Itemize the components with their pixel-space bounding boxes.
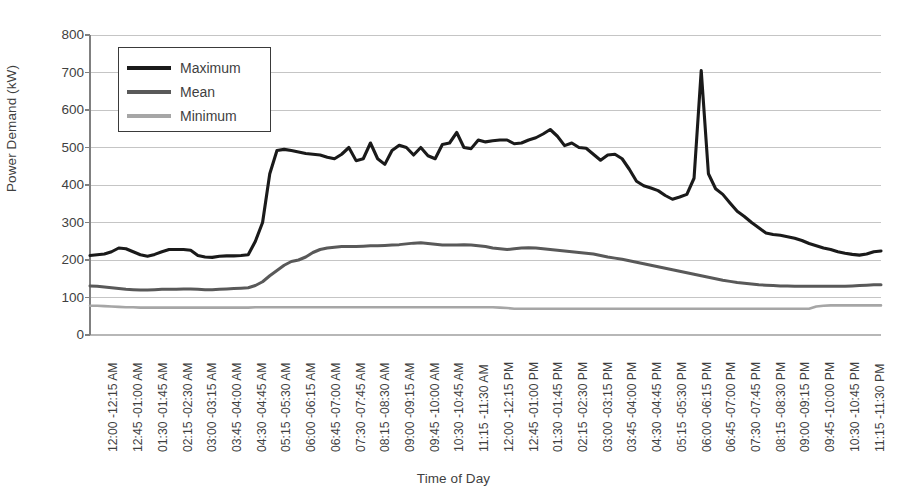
- x-tick-label: 09:45 -10:00 AM: [429, 363, 441, 452]
- x-tick-label: 06:45 -07:00 AM: [330, 363, 342, 452]
- x-tick-label: 07:30 -07:45 AM: [355, 363, 367, 452]
- power-demand-chart: 0100200300400500600700800 12:00 -12:15 A…: [0, 0, 907, 504]
- x-tick-label: 03:45 -04:00 AM: [231, 363, 243, 452]
- legend-swatch-maximum: [127, 66, 171, 70]
- x-tick-label: 08:15 -08:30 PM: [775, 362, 787, 452]
- x-tick-label: 06:00 -06:15 PM: [701, 362, 713, 452]
- x-tick-label: 09:00 -09:15 PM: [799, 362, 811, 452]
- x-tick-label: 08:15 -08:30 AM: [379, 363, 391, 452]
- chart-legend: Maximum Mean Minimum: [118, 47, 271, 132]
- x-tick-label: 06:00 -06:15 AM: [305, 363, 317, 452]
- x-tick-label: 01:30 -01:45 AM: [157, 363, 169, 452]
- x-tick-label: 04:30 -04:45 PM: [651, 362, 663, 452]
- x-tick-label: 02:15 -02:30 PM: [577, 362, 589, 452]
- legend-label-minimum: Minimum: [180, 108, 237, 124]
- x-tick-label: 07:30 -07:45 PM: [750, 362, 762, 452]
- legend-swatch-minimum: [127, 114, 171, 118]
- legend-swatch-mean: [127, 90, 171, 94]
- x-tick-label: 12:45 -01:00 AM: [132, 363, 144, 452]
- y-axis-title: Power Demand (kW): [4, 65, 19, 192]
- x-tick-label: 11:15 -11:30 PM: [874, 364, 886, 452]
- x-tick-label: 06:45 -07:00 PM: [725, 362, 737, 452]
- x-tick-label: 03:00 -03:15 PM: [602, 362, 614, 452]
- legend-item-mean: Mean: [127, 80, 215, 104]
- x-tick-label: 04:30 -04:45 AM: [256, 363, 268, 452]
- x-axis-title: Time of Day: [0, 471, 907, 486]
- x-tick-label: 01:30 -01:45 PM: [552, 362, 564, 452]
- legend-label-mean: Mean: [180, 84, 215, 100]
- x-tick-label: 05:15 -05:30 PM: [676, 362, 688, 452]
- legend-item-minimum: Minimum: [127, 104, 237, 128]
- x-tick-label: 03:45 -04:00 PM: [626, 362, 638, 452]
- legend-label-maximum: Maximum: [180, 60, 241, 76]
- x-tick-label: 09:45 -10:00 PM: [824, 362, 836, 452]
- x-tick-label: 12:45 -01:00 PM: [528, 362, 540, 452]
- x-tick-label: 03:00 -03:15 AM: [206, 363, 218, 452]
- x-tick-label: 09:00 -09:15 AM: [404, 363, 416, 452]
- x-tick-label: 10:30 -10:45 PM: [849, 362, 861, 452]
- legend-item-maximum: Maximum: [127, 56, 241, 80]
- x-tick-label: 05:15 -05:30 AM: [280, 363, 292, 452]
- x-tick-label: 11:15 -11:30 AM: [478, 364, 490, 452]
- x-tick-label: 02:15 -02:30 AM: [182, 363, 194, 452]
- x-tick-label: 10:30 -10:45 AM: [453, 363, 465, 452]
- x-tick-label: 12:00 -12:15 AM: [107, 363, 119, 452]
- x-tick-label: 12:00 -12:15 PM: [503, 362, 515, 452]
